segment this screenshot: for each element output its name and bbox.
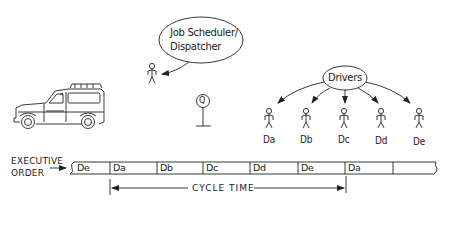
driver-label-db: Db [300, 134, 312, 145]
drivers-label: Drivers [328, 71, 362, 84]
driver-label-dd: Dd [375, 135, 387, 146]
driver-figures [265, 108, 423, 128]
dispatcher-arrow [162, 62, 189, 74]
executive-order-label-line1: EXECUTIVE [11, 155, 63, 167]
order-cell-1: De [77, 162, 90, 173]
vehicle-icon [14, 84, 104, 129]
driver-label-dc: Dc [338, 134, 349, 145]
queue-label: Q [199, 95, 205, 105]
executive-order-label-line2: ORDER [11, 167, 44, 179]
order-cell-2: Da [113, 162, 126, 173]
dispatcher-figure-icon [148, 63, 156, 83]
cycle-time-label: CYCLE TIME [192, 182, 255, 194]
dispatcher-label-line1: Job Scheduler/ [170, 26, 238, 39]
order-cell-5: Dd [253, 162, 266, 173]
order-cell-4: Dc [206, 162, 218, 173]
order-cell-7: Da [348, 162, 361, 173]
order-cell-3: Db [160, 162, 173, 173]
driver-label-de: De [413, 136, 425, 147]
driver-arrows [278, 82, 410, 103]
driver-label-da: Da [263, 134, 275, 145]
order-cell-6: De [301, 162, 314, 173]
dispatcher-label-line2: Dispatcher [170, 40, 221, 53]
